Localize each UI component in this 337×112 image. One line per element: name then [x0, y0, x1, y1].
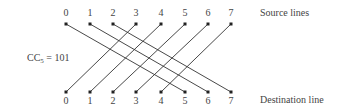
- source-node-dot: [112, 23, 115, 26]
- destination-node-label: 3: [134, 95, 139, 106]
- destination-node-label: 2: [111, 95, 116, 106]
- destination-node-label: 7: [229, 95, 234, 106]
- source-node-dot: [207, 23, 210, 26]
- source-nodes: 01234567: [64, 7, 234, 26]
- source-node-dot: [160, 23, 163, 26]
- source-node-label: 6: [206, 7, 211, 18]
- destination-node-label: 4: [159, 95, 164, 106]
- destination-node-label: 1: [88, 95, 93, 106]
- source-node-dot: [89, 23, 92, 26]
- destination-node-dot: [184, 91, 187, 94]
- source-node-label: 0: [64, 7, 69, 18]
- destination-line-caption: Destination line: [260, 94, 324, 105]
- connection-line: [113, 24, 185, 92]
- source-lines-caption: Source lines: [260, 7, 309, 18]
- source-node-dot: [65, 23, 68, 26]
- destination-node-dot: [207, 91, 210, 94]
- destination-node-label: 0: [64, 95, 69, 106]
- destination-nodes: 01234567: [64, 91, 234, 107]
- source-node-label: 7: [229, 7, 234, 18]
- source-node-label: 1: [88, 7, 93, 18]
- cyclic-shift-diagram: 01234567 01234567 CC5 = 101 Source lines…: [0, 0, 337, 112]
- source-node-label: 2: [111, 7, 116, 18]
- connection-lines: [66, 24, 231, 92]
- source-node-dot: [184, 23, 187, 26]
- source-node-label: 4: [159, 7, 164, 18]
- source-node-label: 3: [134, 7, 139, 18]
- destination-node-label: 5: [183, 95, 188, 106]
- source-node-dot: [230, 23, 233, 26]
- destination-node-dot: [230, 91, 233, 94]
- destination-node-dot: [112, 91, 115, 94]
- source-node-dot: [135, 23, 138, 26]
- cc-label: CC5 = 101: [27, 52, 69, 65]
- source-node-label: 5: [183, 7, 188, 18]
- destination-node-dot: [89, 91, 92, 94]
- destination-node-label: 6: [206, 95, 211, 106]
- destination-node-dot: [135, 91, 138, 94]
- destination-node-dot: [65, 91, 68, 94]
- destination-node-dot: [160, 91, 163, 94]
